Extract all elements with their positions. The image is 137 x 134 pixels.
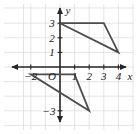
x-tick-label-neg2: −2 (24, 70, 37, 82)
y-tick-label-2: 2 (49, 32, 55, 44)
x-tick-label-3: 3 (100, 70, 107, 82)
x-axis-label: x (127, 70, 133, 82)
y-axis-label: y (65, 4, 71, 16)
y-tick-label-3: 3 (48, 17, 55, 29)
x-tick-label-4: 4 (116, 70, 122, 82)
x-tick-label-2: 2 (86, 70, 92, 82)
y-tick-label-1: 1 (49, 46, 55, 58)
axis-labels: −2 O 1 2 3 4 x 3 2 1 −3 y (24, 4, 132, 117)
y-tick-label-neg3: −3 (43, 105, 56, 117)
x-tick-label-1: 1 (72, 70, 78, 82)
axes (12, 8, 126, 122)
coordinate-plane-svg: −2 O 1 2 3 4 x 3 2 1 −3 y (0, 0, 137, 134)
coordinate-plane-figure: −2 O 1 2 3 4 x 3 2 1 −3 y (0, 0, 137, 134)
origin-label: O (48, 70, 56, 82)
